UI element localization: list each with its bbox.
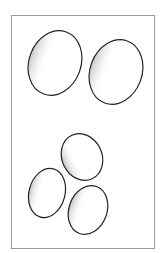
egg-large-left bbox=[19, 23, 90, 103]
eggs-illustration bbox=[0, 0, 168, 253]
egg-small-right bbox=[62, 180, 115, 240]
egg-large-right bbox=[80, 32, 151, 112]
egg-small-left bbox=[23, 164, 71, 222]
